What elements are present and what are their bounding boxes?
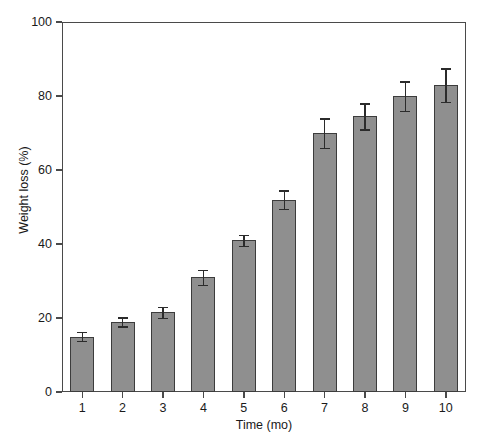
error-bar-stem [162, 307, 163, 318]
x-tick-mark [82, 392, 83, 398]
y-tick-label: 0 [45, 384, 52, 400]
bars-layer [62, 22, 466, 392]
x-tick-label: 4 [183, 401, 223, 415]
error-bar-cap-upper [360, 103, 370, 104]
y-axis-title: Weight loss (%) [17, 120, 31, 260]
error-bar-cap-upper [320, 118, 330, 119]
error-bar-cap-lower [320, 148, 330, 149]
x-tick-mark [243, 392, 244, 398]
y-tick-label: 60 [38, 162, 52, 178]
error-bar-cap-upper [158, 307, 168, 308]
x-tick-label: 2 [103, 401, 143, 415]
x-tick-mark [405, 392, 406, 398]
error-bar-cap-upper [77, 332, 87, 333]
bar [272, 200, 296, 392]
error-bar-cap-lower [198, 285, 208, 286]
bar [70, 337, 94, 393]
bar [393, 96, 417, 392]
error-bar-stem [203, 270, 204, 285]
error-bar-cap-lower [360, 129, 370, 130]
y-tick-label: 80 [38, 88, 52, 104]
error-bar-cap-lower [239, 246, 249, 247]
error-bar-cap-upper [198, 270, 208, 271]
y-tick-label: 40 [38, 236, 52, 252]
error-bar-stem [405, 81, 406, 111]
error-bar-stem [243, 235, 244, 246]
error-bar-cap-lower [118, 326, 128, 327]
bar [353, 116, 377, 392]
x-tick-mark [284, 392, 285, 398]
x-tick-label: 8 [345, 401, 385, 415]
x-tick-label: 6 [264, 401, 304, 415]
bar [151, 312, 175, 392]
x-tick-mark [203, 392, 204, 398]
error-bar-stem [324, 118, 325, 148]
x-tick-mark [445, 392, 446, 398]
bar [434, 85, 458, 392]
error-bar-cap-upper [118, 317, 128, 318]
error-bar-stem [364, 103, 365, 129]
x-tick-mark [364, 392, 365, 398]
x-tick-label: 1 [62, 401, 102, 415]
error-bar-cap-upper [441, 68, 451, 69]
bar-chart-figure: 020406080100 Weight loss (%) 12345678910… [0, 0, 481, 443]
error-bar-cap-lower [279, 209, 289, 210]
error-bar-cap-lower [158, 318, 168, 319]
x-tick-label: 5 [224, 401, 264, 415]
y-tick-label: 100 [31, 14, 52, 30]
error-bar-stem [445, 68, 446, 101]
x-tick-label: 10 [426, 401, 466, 415]
error-bar-cap-upper [279, 190, 289, 191]
x-tick-mark [162, 392, 163, 398]
bar [313, 133, 337, 392]
x-axis-title: Time (mo) [62, 418, 466, 432]
x-tick-label: 3 [143, 401, 183, 415]
y-axis: 020406080100 [0, 0, 62, 443]
bar [232, 240, 256, 392]
error-bar-cap-lower [77, 341, 87, 342]
bar [111, 322, 135, 392]
error-bar-cap-upper [400, 81, 410, 82]
x-tick-mark [122, 392, 123, 398]
x-tick-label: 7 [305, 401, 345, 415]
y-tick-label: 20 [38, 310, 52, 326]
error-bar-cap-upper [239, 235, 249, 236]
error-bar-cap-lower [441, 102, 451, 103]
error-bar-cap-lower [400, 111, 410, 112]
x-tick-mark [324, 392, 325, 398]
x-tick-label: 9 [385, 401, 425, 415]
error-bar-stem [284, 190, 285, 209]
bar [191, 277, 215, 392]
